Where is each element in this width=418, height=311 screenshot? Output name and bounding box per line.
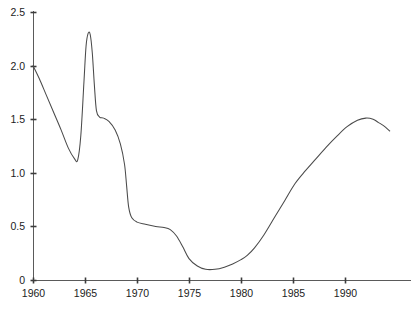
x-tick-label: 1990 — [334, 287, 358, 299]
y-axis-tick-labels: 00.51.01.52.02.5 — [10, 6, 25, 286]
y-tick-label: 2.0 — [10, 60, 25, 72]
y-tick-label: 1.5 — [10, 113, 25, 125]
x-tick-label: 1970 — [126, 287, 150, 299]
x-tick-label: 1985 — [282, 287, 306, 299]
data-line-series-1 — [33, 32, 390, 270]
line-chart: 00.51.01.52.02.5 19601965197019751980198… — [0, 0, 418, 311]
x-tick-label: 1980 — [230, 287, 254, 299]
y-tick-label: 0 — [19, 274, 25, 286]
x-axis-tick-labels: 1960196519701975198019851990 — [22, 287, 358, 299]
x-tick-label: 1975 — [178, 287, 202, 299]
chart-container: 00.51.01.52.02.5 19601965197019751980198… — [0, 0, 418, 311]
y-tick-label: 1.0 — [10, 167, 25, 179]
x-tick-label: 1965 — [74, 287, 98, 299]
chart-axes — [33, 11, 411, 281]
y-tick-label: 2.5 — [10, 6, 25, 18]
x-tick-label: 1960 — [22, 287, 46, 299]
y-tick-label: 0.5 — [10, 220, 25, 232]
data-series-group — [33, 32, 390, 270]
